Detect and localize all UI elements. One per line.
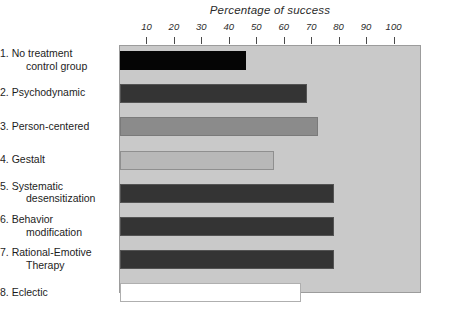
- bar: [120, 250, 334, 269]
- plot-area: [119, 45, 421, 293]
- x-tick-label: 100: [386, 21, 402, 32]
- x-tick-label: 60: [278, 21, 289, 32]
- category-label: 1. No treatmentcontrol group: [0, 47, 112, 72]
- category-label-line1: 1. No treatment: [0, 47, 112, 60]
- x-tick-mark: [174, 37, 175, 44]
- category-label: 5. Systematicdesensitization: [0, 180, 112, 205]
- x-tick-mark: [256, 37, 257, 44]
- x-tick-mark: [146, 37, 147, 44]
- bar: [120, 184, 334, 203]
- x-tick-mark: [339, 37, 340, 44]
- x-tick-label: 10: [141, 21, 152, 32]
- category-label: 2. Psychodynamic: [0, 86, 112, 99]
- x-tick-label: 30: [196, 21, 207, 32]
- category-label-line2: modification: [0, 226, 112, 239]
- category-label: 3. Person-centered: [0, 120, 112, 133]
- x-tick-mark: [284, 37, 285, 44]
- category-label-line1: 8. Eclectic: [0, 286, 112, 299]
- bar: [120, 51, 246, 70]
- x-tick-mark: [201, 37, 202, 44]
- bar: [120, 84, 307, 103]
- category-label-line2: Therapy: [0, 259, 112, 272]
- category-label-line1: 5. Systematic: [0, 180, 112, 193]
- x-tick-label: 90: [361, 21, 372, 32]
- bar: [120, 283, 301, 302]
- category-label-line1: 6. Behavior: [0, 213, 112, 226]
- x-tick-mark: [311, 37, 312, 44]
- category-label-line1: 3. Person-centered: [0, 120, 112, 133]
- x-tick-label: 40: [224, 21, 235, 32]
- category-label-line1: 4. Gestalt: [0, 153, 112, 166]
- bar: [120, 217, 334, 236]
- x-tick-label: 20: [169, 21, 180, 32]
- bar: [120, 151, 274, 170]
- category-label-line1: 7. Rational-Emotive: [0, 246, 112, 259]
- bar-chart-figure: Percentage of success 102030405060708090…: [0, 0, 456, 309]
- chart-title: Percentage of success: [119, 4, 421, 16]
- x-tick-mark: [366, 37, 367, 44]
- category-label: 6. Behaviormodification: [0, 213, 112, 238]
- bar: [120, 117, 318, 136]
- x-tick-label: 50: [251, 21, 262, 32]
- x-tick-mark: [229, 37, 230, 44]
- category-labels: 1. No treatmentcontrol group2. Psychodyn…: [0, 45, 112, 293]
- category-label: 7. Rational-EmotiveTherapy: [0, 246, 112, 271]
- x-tick-mark: [394, 37, 395, 44]
- category-label: 8. Eclectic: [0, 286, 112, 299]
- category-label-line2: desensitization: [0, 192, 112, 205]
- x-tick-label: 80: [333, 21, 344, 32]
- x-tick-label: 70: [306, 21, 317, 32]
- category-label-line2: control group: [0, 60, 112, 73]
- category-label-line1: 2. Psychodynamic: [0, 86, 112, 99]
- category-label: 4. Gestalt: [0, 153, 112, 166]
